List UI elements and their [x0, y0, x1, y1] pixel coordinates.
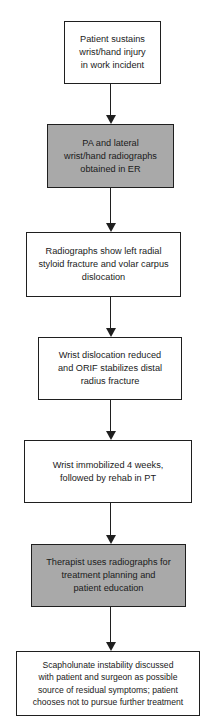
step-text-line: in work incident: [79, 59, 145, 72]
connector-line: [110, 503, 111, 535]
connector-line: [110, 607, 111, 643]
step-text-line: and ORIF stabilizes distal: [58, 362, 162, 375]
arrow-down-icon: [106, 431, 116, 440]
connector-line: [110, 188, 111, 224]
step-text-line: wrist/hand injury: [79, 46, 145, 59]
arrow-down-icon: [106, 328, 116, 337]
flow-step-radiograph-findings: Radiographs show left radial styloid fra…: [26, 232, 181, 297]
step-text-line: Patient sustains: [79, 33, 145, 46]
step-text-line: obtained in ER: [64, 163, 157, 176]
arrow-down-icon: [106, 223, 116, 232]
step-text-line: Therapist uses radiographs for: [46, 556, 171, 569]
flow-step-immobilization-rehab: Wrist immobilized 4 weeks, followed by r…: [24, 440, 192, 503]
step-text-line: patient education: [46, 582, 171, 595]
connector-line: [110, 297, 111, 329]
arrow-down-icon: [106, 115, 116, 124]
flow-step-radiographs-er: PA and lateral wrist/hand radiographs ob…: [47, 124, 174, 188]
arrow-down-icon: [106, 535, 116, 544]
step-text-line: followed by rehab in PT: [53, 472, 164, 485]
step-text-line: Radiographs show left radial: [38, 245, 168, 258]
step-text-line: Wrist dislocation reduced: [58, 349, 162, 362]
step-text-line: chooses not to pursue further treatment: [33, 696, 183, 709]
arrow-down-icon: [106, 642, 116, 651]
step-text-line: styloid fracture and volar carpus: [38, 258, 168, 271]
step-text-line: treatment planning and: [46, 569, 171, 582]
step-text-line: Scapholunate instability discussed: [33, 659, 183, 672]
connector-line: [110, 400, 111, 432]
step-text-line: Wrist immobilized 4 weeks,: [53, 459, 164, 472]
step-text-line: dislocation: [38, 271, 168, 284]
flow-step-reduction-orif: Wrist dislocation reduced and ORIF stabi…: [38, 337, 182, 400]
flow-step-injury: Patient sustains wrist/hand injury in wo…: [64, 21, 161, 84]
flow-step-scapholunate-outcome: Scapholunate instability discussed with …: [16, 651, 200, 716]
connector-line: [110, 84, 111, 116]
step-text-line: PA and lateral: [64, 137, 157, 150]
step-text-line: radius fracture: [58, 375, 162, 388]
step-text-line: with patient and surgeon as possible: [33, 671, 183, 684]
step-text-line: wrist/hand radiographs: [64, 150, 157, 163]
step-text-line: source of residual symptoms; patient: [33, 684, 183, 697]
flow-step-therapist-planning: Therapist uses radiographs for treatment…: [31, 544, 186, 607]
